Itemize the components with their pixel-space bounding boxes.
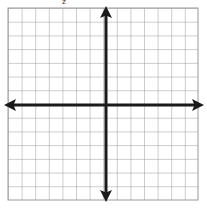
top-edge-mark: z [56,0,72,6]
coordinate-plane-svg [0,0,207,208]
coordinate-grid-figure: z [0,0,207,208]
